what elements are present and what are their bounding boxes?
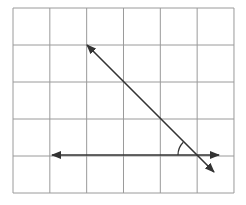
grid-diagram (0, 0, 246, 205)
transversal-line (87, 45, 214, 172)
angle-arc (178, 142, 183, 155)
grid (13, 8, 234, 193)
